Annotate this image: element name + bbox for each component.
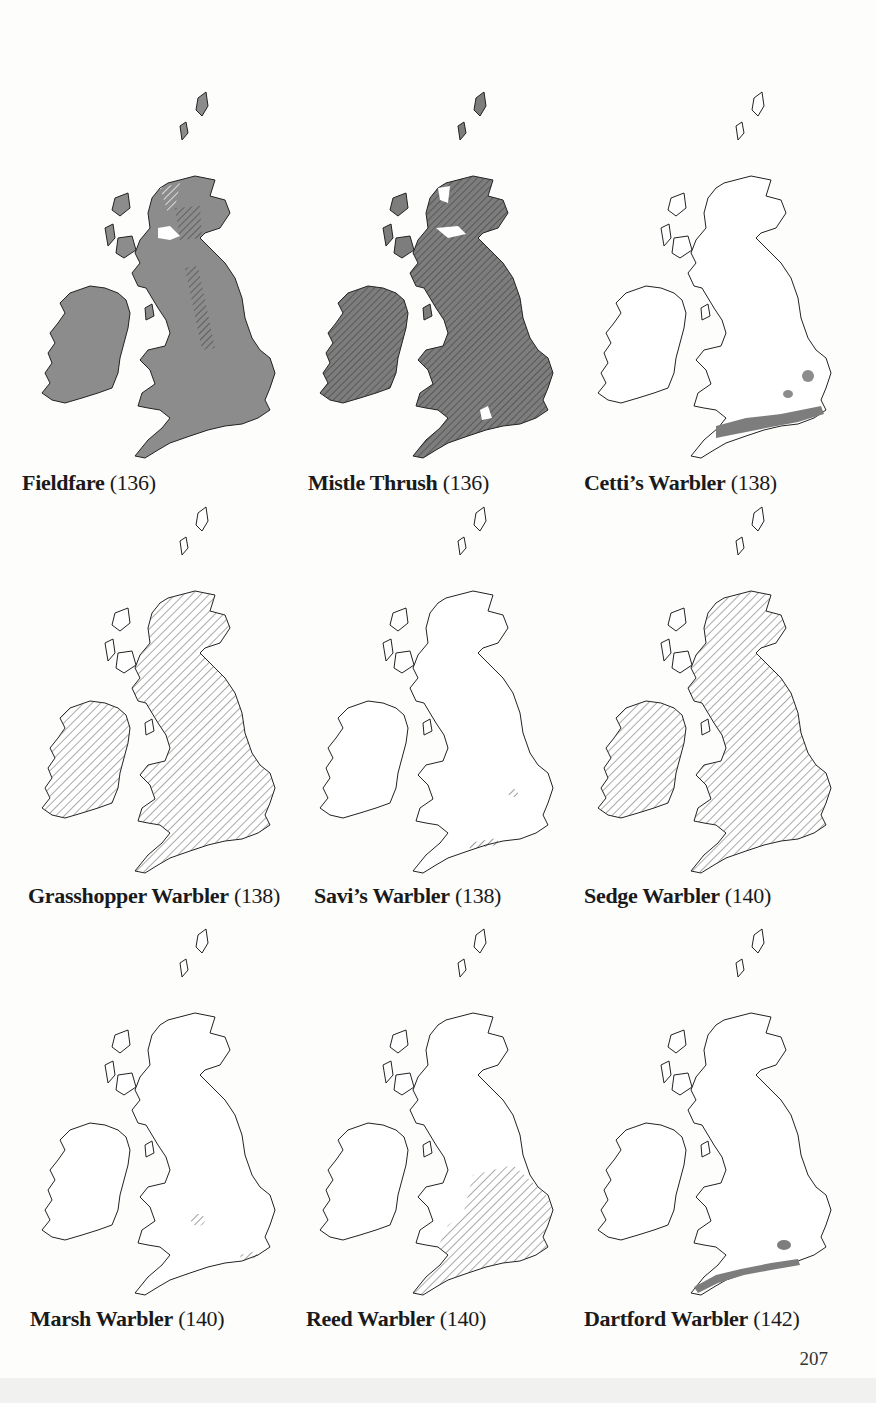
species-name: Marsh Warbler [30,1306,173,1331]
page-reference: (140) [440,1306,486,1331]
map-grasshopper-warbler: Grasshopper Warbler (138) [20,503,300,923]
page-reference: (140) [178,1306,224,1331]
british-isles-map [298,88,558,478]
map-cettis-warbler: Cetti’s Warbler (138) [576,88,856,508]
page-reference: (140) [725,883,771,908]
map-caption: Reed Warbler (140) [306,1306,486,1332]
species-name: Mistle Thrush [308,470,438,495]
map-caption: Dartford Warbler (142) [584,1306,799,1332]
map-caption: Marsh Warbler (140) [30,1306,224,1332]
page-reference: (138) [455,883,501,908]
page-edge-shadow [0,1378,876,1403]
species-name: Reed Warbler [306,1306,435,1331]
british-isles-map [20,88,280,478]
map-fieldfare: Fieldfare (136) [20,88,300,508]
british-isles-map [576,925,836,1315]
map-caption: Mistle Thrush (136) [308,470,489,496]
species-name: Savi’s Warbler [314,883,450,908]
british-isles-map [576,88,836,478]
map-dartford-warbler: Dartford Warbler (142) [576,925,856,1345]
species-name: Sedge Warbler [584,883,720,908]
species-name: Fieldfare [22,470,104,495]
book-page: Fieldfare (136) Mistle Thrush (136) [0,0,876,1403]
british-isles-map [298,925,558,1315]
map-caption: Savi’s Warbler (138) [314,883,501,909]
british-isles-map [298,503,558,893]
page-reference: (142) [753,1306,799,1331]
map-caption: Fieldfare (136) [22,470,156,496]
page-number: 207 [800,1348,829,1370]
page-reference: (138) [234,883,280,908]
map-caption: Grasshopper Warbler (138) [28,883,280,909]
page-reference: (138) [731,470,777,495]
british-isles-map [20,925,280,1315]
british-isles-map [20,503,280,893]
map-savis-warbler: Savi’s Warbler (138) [298,503,578,923]
map-caption: Sedge Warbler (140) [584,883,771,909]
map-reed-warbler: Reed Warbler (140) [298,925,578,1345]
species-name: Dartford Warbler [584,1306,748,1331]
map-mistle-thrush: Mistle Thrush (136) [298,88,578,508]
page-reference: (136) [443,470,489,495]
map-caption: Cetti’s Warbler (138) [584,470,777,496]
species-name: Grasshopper Warbler [28,883,229,908]
species-name: Cetti’s Warbler [584,470,726,495]
map-marsh-warbler: Marsh Warbler (140) [20,925,300,1345]
page-reference: (136) [110,470,156,495]
map-sedge-warbler: Sedge Warbler (140) [576,503,856,923]
british-isles-map [576,503,836,893]
